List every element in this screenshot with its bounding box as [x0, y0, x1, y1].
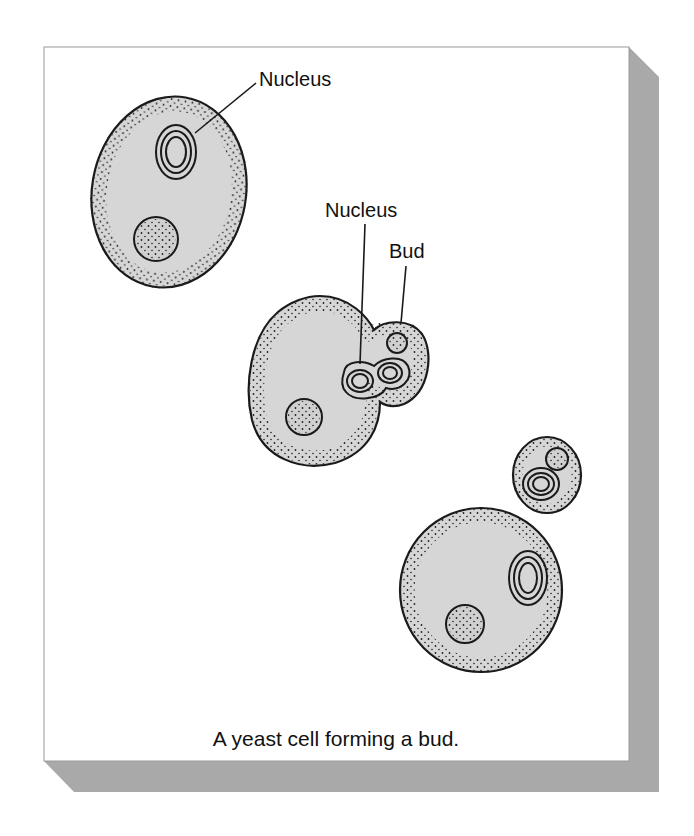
bud-vacuole-icon [387, 333, 407, 353]
figure-stage: Nucleus Nucleus Bud [0, 0, 694, 836]
vacuole-icon [134, 217, 178, 261]
bud-label: Bud [389, 240, 425, 262]
vacuole-icon [286, 399, 322, 435]
daughter-cell [513, 437, 581, 513]
vacuole-icon [546, 448, 568, 470]
yeast-budding-diagram: Nucleus Nucleus Bud [0, 0, 694, 836]
mother-cell [400, 508, 562, 672]
figure-caption: A yeast cell forming a bud. [213, 727, 459, 750]
nucleus-top-label: Nucleus [259, 68, 331, 90]
vacuole-icon [446, 605, 484, 643]
nucleus-middle-label: Nucleus [325, 199, 397, 221]
